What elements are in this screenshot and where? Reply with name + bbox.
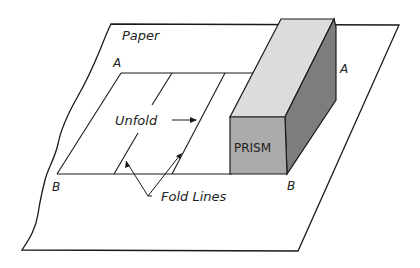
paper-sheet bbox=[22, 24, 399, 251]
corner-b-right-label: B bbox=[287, 179, 295, 193]
corner-a-right-label: A bbox=[339, 62, 348, 76]
prism-label: PRISM bbox=[234, 141, 271, 155]
prism-unfold-diagram: Paper A A B B Unfold Fold Lines PRISM bbox=[0, 0, 420, 268]
paper-label: Paper bbox=[122, 28, 161, 43]
fold-lines-label: Fold Lines bbox=[161, 189, 227, 204]
corner-a-left-label: A bbox=[112, 56, 121, 70]
corner-b-left-label: B bbox=[52, 180, 60, 194]
unfold-label: Unfold bbox=[115, 113, 158, 128]
